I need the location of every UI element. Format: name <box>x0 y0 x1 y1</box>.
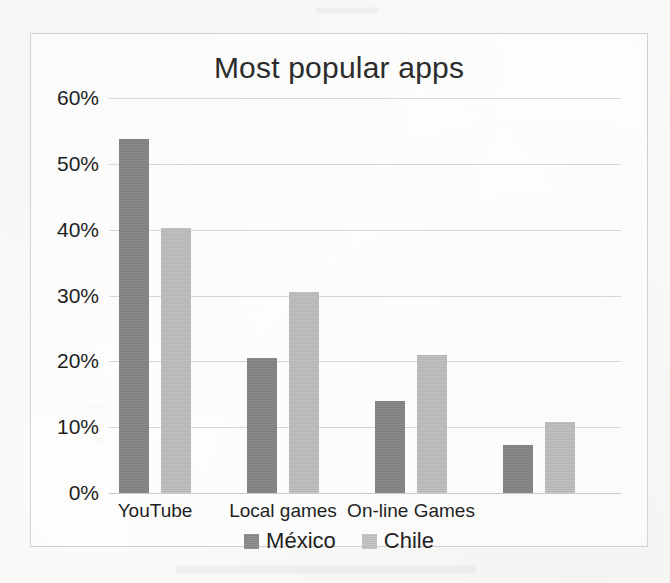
y-axis-tick-label: 40% <box>57 218 99 242</box>
x-axis-tick-label: YouTube <box>118 500 193 522</box>
legend-item-chile[interactable]: Chile <box>362 528 434 554</box>
x-axis-tick-label: On-line Games <box>347 500 475 522</box>
bar-chile-2 <box>417 355 447 493</box>
x-axis-labels: YouTubeLocal gamesOn-line Games <box>109 500 621 528</box>
legend-swatch-icon <box>362 534 377 549</box>
chart-title: Most popular apps <box>31 51 647 85</box>
bar-mexico-0 <box>119 139 149 493</box>
bar-chile-0 <box>161 228 191 493</box>
legend-item-mexico[interactable]: México <box>244 528 336 554</box>
chart-legend: MéxicoChile <box>31 528 647 554</box>
gridline-0 <box>109 493 621 494</box>
legend-label: México <box>266 528 336 554</box>
y-axis-tick-label: 30% <box>57 284 99 308</box>
bar-chile-3 <box>545 422 575 493</box>
y-axis-tick-label: 20% <box>57 349 99 373</box>
bar-mexico-2 <box>375 401 405 493</box>
y-axis-tick-label: 10% <box>57 415 99 439</box>
bars <box>109 98 621 493</box>
bar-mexico-1 <box>247 358 277 493</box>
bar-chile-1 <box>289 292 319 493</box>
x-axis-tick-label: Local games <box>229 500 337 522</box>
legend-label: Chile <box>384 528 434 554</box>
scan-artifact <box>176 566 476 573</box>
legend-swatch-icon <box>244 534 259 549</box>
chart-container: Most popular apps 0%10%20%30%40%50%60% Y… <box>30 33 648 547</box>
y-axis-tick-label: 60% <box>57 86 99 110</box>
scan-artifact <box>316 8 378 13</box>
plot-area: 0%10%20%30%40%50%60% <box>109 98 621 493</box>
bar-mexico-3 <box>503 445 533 493</box>
y-axis-tick-label: 50% <box>57 152 99 176</box>
y-axis-tick-label: 0% <box>69 481 99 505</box>
